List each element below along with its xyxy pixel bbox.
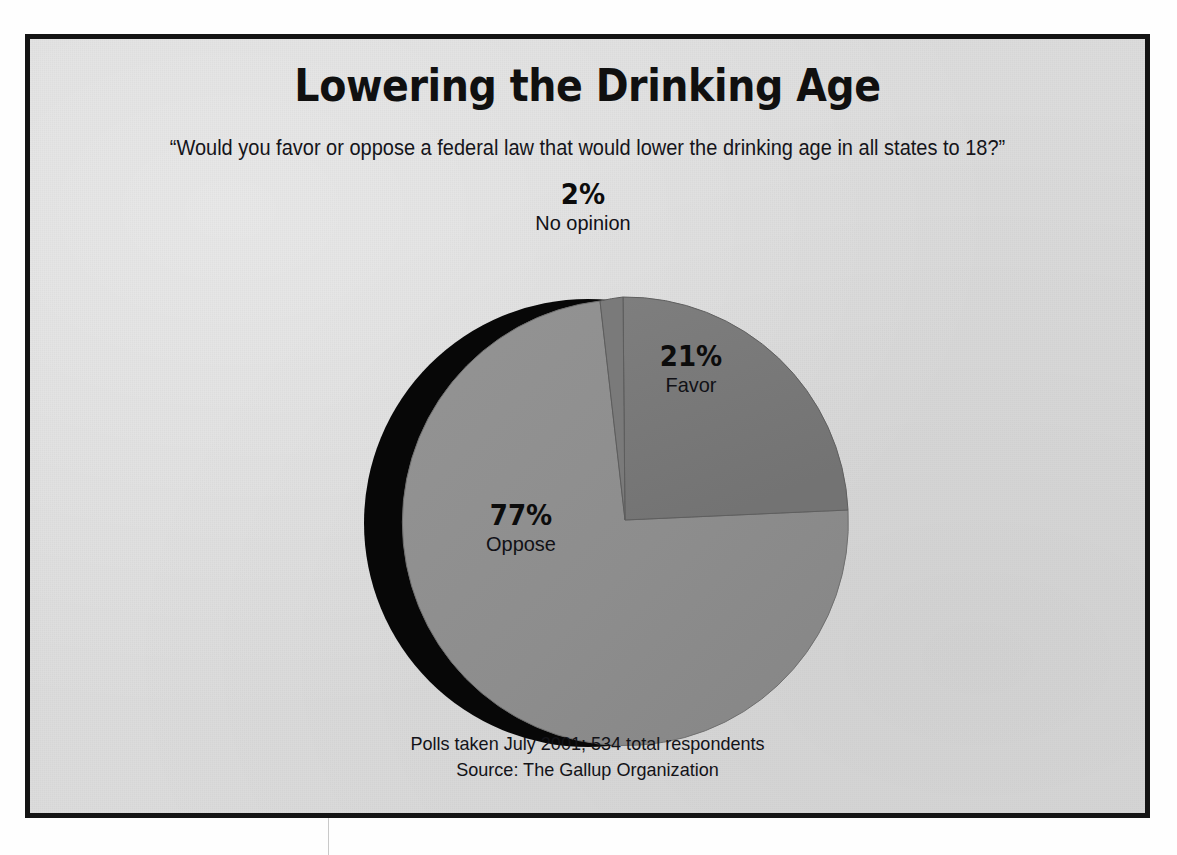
footnote-line-1: Polls taken July 2001; 534 total respond…: [58, 731, 1117, 757]
favor-name: Favor: [587, 372, 796, 398]
oppose-name: Oppose: [417, 531, 626, 557]
chart-card: Lowering the Drinking Age “Would you fav…: [25, 34, 1150, 818]
paper-crease-bottom: [328, 818, 329, 855]
favor-percent: 21%: [592, 342, 790, 372]
no-opinion-percent: 2%: [453, 180, 714, 210]
slice-label-favor: 21% Favor: [581, 342, 801, 398]
slice-label-no-opinion: 2% No opinion: [438, 180, 728, 236]
scan-page: Lowering the Drinking Age “Would you fav…: [0, 0, 1177, 855]
pie-chart-svg: [30, 39, 1145, 813]
pie-chart: 2% No opinion 21% Favor 77% Oppose: [30, 39, 1145, 813]
no-opinion-name: No opinion: [445, 210, 721, 236]
chart-footnote: Polls taken July 2001; 534 total respond…: [58, 731, 1117, 782]
slice-label-oppose: 77% Oppose: [411, 501, 631, 557]
pie-slice-favor[interactable]: [623, 297, 848, 520]
footnote-line-2: Source: The Gallup Organization: [58, 757, 1117, 783]
oppose-percent: 77%: [422, 501, 620, 531]
